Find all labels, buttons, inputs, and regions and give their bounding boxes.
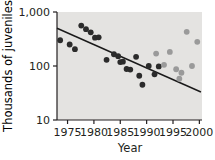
y-tick-label: 100 — [29, 60, 50, 73]
y-tick-label: 10 — [36, 114, 50, 127]
data-point — [96, 34, 102, 40]
data-point — [173, 66, 179, 72]
x-tick-label: 1985 — [106, 126, 134, 139]
data-point — [161, 62, 167, 68]
data-point — [179, 70, 185, 76]
y-axis-label: Thousands of juveniles — [1, 0, 15, 133]
data-point — [194, 39, 200, 45]
data-point — [146, 63, 152, 69]
data-point — [140, 82, 146, 88]
data-point — [72, 46, 78, 52]
y-axis-tick-labels: 101001,000 — [19, 6, 51, 127]
data-point — [104, 57, 110, 63]
x-tick-label: 1990 — [133, 126, 161, 139]
scatter-plot: 101001,000 197519801985199019952000 Year… — [0, 0, 215, 160]
x-axis-tick-labels: 197519801985199019952000 — [54, 126, 214, 139]
data-point — [133, 54, 139, 60]
data-point — [83, 26, 89, 32]
data-point — [88, 29, 94, 35]
data-point — [156, 64, 162, 70]
data-point — [57, 37, 63, 43]
data-point — [120, 59, 126, 65]
data-point — [189, 63, 195, 69]
data-point — [167, 49, 173, 55]
figure-container: 101001,000 197519801985199019952000 Year… — [0, 0, 215, 160]
data-point — [67, 42, 73, 48]
x-tick-label: 1975 — [54, 126, 82, 139]
x-axis-label: Year — [117, 141, 143, 155]
data-point — [184, 29, 190, 35]
data-point — [115, 53, 121, 59]
x-tick-label: 1980 — [80, 126, 108, 139]
x-tick-label: 1995 — [159, 126, 187, 139]
y-tick-label: 1,000 — [19, 6, 51, 19]
data-point — [176, 76, 182, 82]
data-point — [127, 67, 133, 73]
plot-area-background — [57, 12, 202, 120]
x-tick-label: 2000 — [185, 126, 213, 139]
data-point — [152, 71, 158, 77]
data-point — [78, 23, 84, 29]
data-point — [153, 51, 159, 57]
data-point — [136, 73, 142, 79]
